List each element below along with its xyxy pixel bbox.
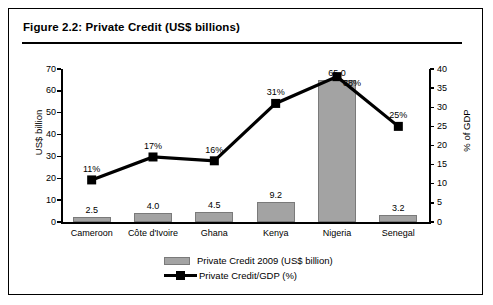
legend-line-marker-icon	[164, 271, 197, 280]
line-value-label: 11%	[67, 164, 117, 174]
legend-bar-swatch-icon	[164, 257, 190, 265]
line-value-label: 38%	[343, 78, 383, 88]
line-marker	[271, 99, 280, 108]
figure-container: Figure 2.2: Private Credit (US$ billions…	[8, 8, 483, 295]
legend-item-line-label: Private Credit/GDP (%)	[199, 270, 297, 281]
line-marker	[210, 156, 219, 165]
line-value-label: 16%	[189, 145, 239, 155]
chart-legend: Private Credit 2009 (US$ billion) Privat…	[164, 253, 333, 283]
line-marker	[87, 175, 96, 184]
legend-item-bar: Private Credit 2009 (US$ billion)	[164, 253, 333, 268]
line-value-label: 31%	[251, 87, 301, 97]
legend-item-line: Private Credit/GDP (%)	[164, 268, 333, 283]
legend-item-bar-label: Private Credit 2009 (US$ billion)	[197, 255, 333, 266]
line-marker	[333, 72, 342, 81]
line-marker	[394, 122, 403, 131]
line-marker	[149, 152, 158, 161]
line-value-label: 25%	[373, 110, 423, 120]
line-value-label: 17%	[128, 141, 178, 151]
line-path	[92, 77, 399, 180]
